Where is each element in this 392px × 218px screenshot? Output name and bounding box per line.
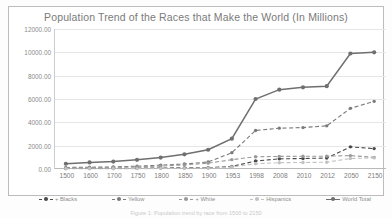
series-marker [64,167,67,170]
plot-wrapper: 0.002000.004000.006000.008000.0010000.00… [54,29,386,169]
series-marker [348,51,352,55]
x-axis-tick-label: 1750 [131,172,146,179]
series-marker [278,155,281,158]
series-marker [88,167,91,170]
series-marker [206,161,209,164]
series-marker [183,163,186,166]
y-axis-tick-label: 8000.00 [28,72,51,79]
series-marker [278,161,281,164]
chart-screenshot: Population Trend of the Races that Make … [0,0,392,218]
legend-swatch-icon [179,197,193,202]
x-axis-tick-label: 1850 [178,172,193,179]
series-marker [230,165,233,168]
chart-frame: Population Trend of the Races that Make … [8,6,384,196]
legend-item[interactable]: Yellow [112,196,145,202]
series-marker [372,156,375,159]
series-marker [325,124,328,127]
series-marker [253,97,257,101]
x-axis-tick-label: 1500 [60,172,75,179]
series-marker [254,155,257,158]
series-marker [325,84,329,88]
legend-label: Hispanics [266,196,291,202]
chart-legend: + BlacksYellow+ WhiteHispanicsWorld Tota… [39,194,371,204]
series-marker [254,162,257,165]
legend-label: + White [195,196,215,202]
series-marker [135,158,139,162]
legend-swatch-icon [39,197,53,202]
x-axis-tick-label: 2150 [368,172,383,179]
y-axis-tick-label: 10000.00 [24,49,51,56]
legend-item[interactable]: + White [179,196,215,202]
legend-label: World Total [342,196,371,202]
series-marker [325,161,328,164]
x-axis-tick-label: 1998 [249,172,264,179]
legend-swatch-icon [326,197,340,202]
chart-title: Population Trend of the Races that Make … [9,11,383,23]
series-marker [87,160,91,164]
series-marker [301,126,304,129]
series-marker [301,85,305,89]
series-marker [112,167,115,170]
series-marker [64,162,68,166]
x-axis-tick-label: 2010 [297,172,312,179]
series-marker [206,166,209,169]
series-marker [278,126,281,129]
series-marker [230,137,234,141]
legend-label: + Blacks [55,196,77,202]
x-axis-tick-label: 2050 [344,172,359,179]
series-marker [159,155,163,159]
series-marker [349,145,352,148]
legend-item[interactable]: World Total [326,196,371,202]
y-axis-tick-label: 6000.00 [28,96,51,103]
series-marker [111,159,115,163]
x-axis-tick-label: 1700 [107,172,122,179]
x-axis-tick-label: 1800 [154,172,169,179]
series-marker [349,107,352,110]
legend-label: Yellow [128,196,145,202]
series-marker [301,161,304,164]
legend-swatch-icon [112,197,126,202]
legend-swatch-icon [250,197,264,202]
series-marker [349,157,352,160]
series-marker [254,129,257,132]
series-marker [372,50,376,54]
series-marker [372,147,375,150]
series-marker [277,88,281,92]
x-axis-tick-label: 2008 [273,172,288,179]
series-marker [325,154,328,157]
series-marker [301,155,304,158]
series-marker [230,151,233,154]
x-axis-tick-label: 1953 [226,172,241,179]
figure-caption: Figure 1: Population trend by race from … [0,210,392,216]
y-axis-tick-label: 12000.00 [24,26,51,33]
x-axis-tick-label: 1900 [202,172,217,179]
series-line [66,52,374,163]
series-marker [349,154,352,157]
series-marker [206,148,210,152]
legend-item[interactable]: Hispanics [250,196,291,202]
series-marker [183,167,186,170]
series-marker [159,167,162,170]
series-marker [230,158,233,161]
y-axis-tick-label: 0.00 [39,166,51,173]
series-layer [54,29,386,169]
y-axis-tick-label: 4000.00 [28,119,51,126]
x-axis-tick-label: 2012 [320,172,335,179]
legend-item[interactable]: + Blacks [39,196,77,202]
x-axis-tick-label: 1600 [83,172,98,179]
series-marker [135,167,138,170]
series-marker [182,152,186,156]
series-marker [372,100,375,103]
y-axis-tick-label: 2000.00 [28,142,51,149]
